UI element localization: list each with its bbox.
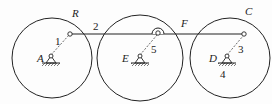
diagram-svg: R 1 A 2 E 5 F C 3 D 4 [0, 0, 272, 104]
label-d: D [208, 52, 217, 64]
wheel-3-circle [190, 18, 270, 98]
label-c: C [245, 5, 253, 17]
joint-c-icon [242, 32, 246, 36]
label-link-2: 2 [93, 20, 99, 32]
label-link-3: 3 [238, 43, 244, 55]
label-e: E [121, 52, 129, 64]
label-r: R [71, 7, 79, 19]
ground-pivot-e-icon [131, 54, 149, 66]
label-link-1: 1 [55, 35, 61, 47]
ground-pivot-a-icon [42, 54, 60, 66]
mechanism-diagram: R 1 A 2 E 5 F C 3 D 4 [0, 0, 272, 104]
ground-pivot-d-icon [218, 54, 236, 66]
label-a: A [36, 52, 44, 64]
label-link-5: 5 [151, 43, 157, 55]
label-f: F [180, 17, 188, 29]
joint-slider-icon [156, 31, 160, 35]
joint-r-icon [68, 32, 72, 36]
label-link-4: 4 [220, 68, 226, 80]
